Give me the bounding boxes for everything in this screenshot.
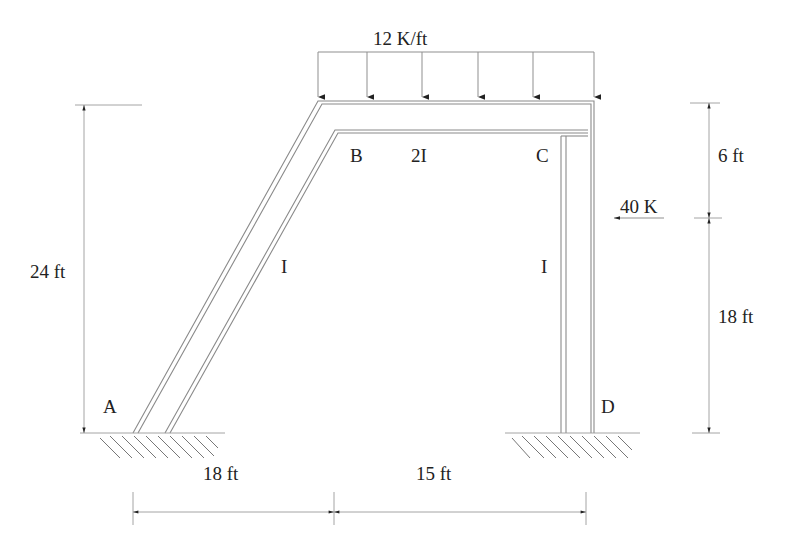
- dimension-left: [75, 105, 142, 433]
- support-d-fixed: [505, 433, 640, 458]
- node-d-label: D: [601, 396, 615, 417]
- member-inner-line: [165, 130, 588, 433]
- node-b-label: B: [350, 145, 363, 166]
- frame-diagram: 12 K/ft: [0, 0, 799, 557]
- node-a-label: A: [103, 396, 117, 417]
- dimension-bottom-right-label: 15 ft: [416, 463, 452, 484]
- dimension-right-top-label: 6 ft: [718, 145, 745, 166]
- dimension-bottom: [133, 492, 586, 525]
- member-outer-line: [133, 101, 594, 433]
- distributed-load-label: 12 K/ft: [373, 28, 428, 49]
- dimension-left-label: 24 ft: [30, 261, 66, 282]
- member-cd-label: I: [541, 256, 547, 277]
- member-ab-label: I: [281, 256, 287, 277]
- support-a-fixed: [80, 433, 225, 458]
- dimension-bottom-left-label: 18 ft: [203, 463, 239, 484]
- node-c-label: C: [536, 145, 549, 166]
- dimension-right-bottom-label: 18 ft: [718, 306, 754, 327]
- distributed-load: [318, 52, 594, 97]
- frame-members: [133, 101, 594, 433]
- member-bc-label: 2I: [411, 145, 427, 166]
- point-load-label: 40 K: [620, 196, 658, 217]
